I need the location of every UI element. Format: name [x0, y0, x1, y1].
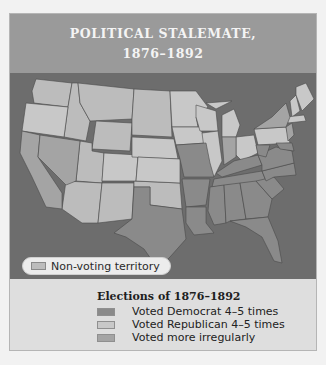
us-states-svg — [10, 73, 316, 279]
state-wisconsin — [196, 105, 218, 131]
state-new-mexico — [98, 183, 134, 223]
non-voting-swatch — [31, 262, 46, 270]
state-new-york — [254, 103, 290, 129]
state-dakotas — [132, 89, 172, 137]
map-figure: POLITICAL STALEMATE, 1876–1892 — [9, 13, 317, 351]
legend-item-republican: Voted Republican 4–5 times — [97, 318, 285, 331]
republican-swatch — [97, 321, 115, 329]
map-subtitle-years: 1876–1892 — [122, 44, 203, 64]
us-map: Non-voting territory — [10, 73, 316, 279]
elections-legend: Elections of 1876–1892 Voted Democrat 4–… — [97, 290, 285, 344]
state-arkansas — [182, 179, 210, 207]
legend-label: Voted Democrat 4–5 times — [132, 305, 278, 318]
state-pennsylvania — [254, 127, 290, 145]
legend-label: Voted Republican 4–5 times — [132, 318, 285, 331]
legend-item-democrat: Voted Democrat 4–5 times — [97, 305, 285, 318]
irregular-swatch — [97, 334, 115, 342]
state-mississippi — [208, 185, 226, 225]
state-arizona — [62, 181, 102, 223]
state-washington — [32, 79, 72, 107]
democrat-swatch — [97, 308, 115, 316]
state-nebraska — [132, 137, 178, 159]
non-voting-label: Non-voting territory — [51, 260, 160, 273]
state-oregon — [22, 103, 68, 137]
title-band: POLITICAL STALEMATE, 1876–1892 — [10, 14, 316, 73]
map-title: POLITICAL STALEMATE, — [70, 24, 257, 44]
state-wyoming — [92, 121, 132, 151]
legend-item-irregular: Voted more irregularly — [97, 331, 285, 344]
state-florida — [230, 217, 282, 263]
non-voting-legend: Non-voting territory — [22, 257, 171, 275]
legend-label: Voted more irregularly — [132, 331, 255, 344]
legend-title: Elections of 1876–1892 — [97, 290, 285, 303]
state-kansas — [136, 157, 180, 183]
